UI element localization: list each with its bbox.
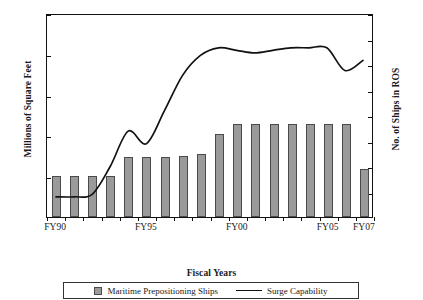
x-tick xyxy=(120,217,121,221)
chart-container: Millions of Square Feet No. of Ships in … xyxy=(0,0,423,300)
x-tick xyxy=(65,217,66,221)
legend-label-line: Surge Capability xyxy=(267,286,328,296)
legend-label-bars: Maritime Prepositioning Ships xyxy=(107,286,218,296)
chart-legend: Maritime Prepositioning Ships Surge Capa… xyxy=(63,282,359,299)
plot-area: 246810 1020304050607080 xyxy=(46,14,373,218)
x-tick xyxy=(156,217,157,221)
x-tick xyxy=(374,217,375,221)
x-tick-label: FY07 xyxy=(342,222,386,232)
x-tick xyxy=(138,217,139,221)
x-tick xyxy=(229,217,230,221)
x-tick xyxy=(102,217,103,221)
x-axis-title: Fiscal Years xyxy=(0,268,423,278)
legend-item-line: Surge Capability xyxy=(236,286,328,296)
bar-swatch-icon xyxy=(94,287,102,295)
x-tick-label: FY90 xyxy=(33,222,77,232)
legend-item-bars: Maritime Prepositioning Ships xyxy=(94,286,218,296)
x-tick xyxy=(301,217,302,221)
surge-capability-line xyxy=(56,46,363,197)
x-tick xyxy=(356,217,357,221)
x-tick xyxy=(320,217,321,221)
line-series xyxy=(47,15,372,217)
x-tick xyxy=(338,217,339,221)
x-tick xyxy=(247,217,248,221)
x-tick xyxy=(83,217,84,221)
x-tick xyxy=(47,217,48,221)
x-tick-label: FY00 xyxy=(215,222,259,232)
x-tick-label: FY95 xyxy=(124,222,168,232)
x-tick xyxy=(192,217,193,221)
y-axis-right-title: No. of Ships in ROS xyxy=(391,34,401,184)
x-tick xyxy=(283,217,284,221)
y-axis-left-title: Millions of Square Feet xyxy=(23,34,33,184)
line-swatch-icon xyxy=(236,290,262,291)
x-tick xyxy=(174,217,175,221)
x-tick xyxy=(265,217,266,221)
x-tick xyxy=(211,217,212,221)
